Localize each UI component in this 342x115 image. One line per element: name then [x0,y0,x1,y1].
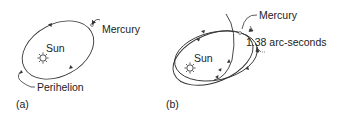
sun-icon [37,52,48,63]
panel-b-orbits [165,14,262,96]
mercury-planet-icon [91,24,94,27]
panel-b-sun-label: Sun [194,53,213,64]
panel-b-caption: (b) [166,99,179,110]
orbit-arrow-icon [215,75,219,79]
orbit-arrow-icon [20,70,24,74]
sun-icon [184,62,195,73]
panel-a-perihelion-label: Perihelion [37,82,84,93]
panel-a-caption: (a) [16,99,29,110]
orbit-arrow-icon [48,23,52,27]
orbit-arrow-icon [218,68,222,72]
perihelion-pointer [18,72,35,87]
panel-a-sun-label: Sun [46,43,65,54]
mercury-pointer [93,19,100,23]
orbit-arrow-icon [227,59,231,63]
orbit-arrow-icon [196,38,200,42]
orbit-arrow-icon [201,30,205,34]
panel-b-precession-label: 1.38 arc-seconds [246,37,327,48]
mercury-planet-icon [239,32,242,35]
precession-arrow-top-icon [249,26,253,32]
mercury-pointer [242,15,257,29]
orbit-arrow-icon [69,65,73,69]
panel-a-mercury-label: Mercury [102,24,140,35]
panel-b-mercury-label: Mercury [259,10,297,21]
